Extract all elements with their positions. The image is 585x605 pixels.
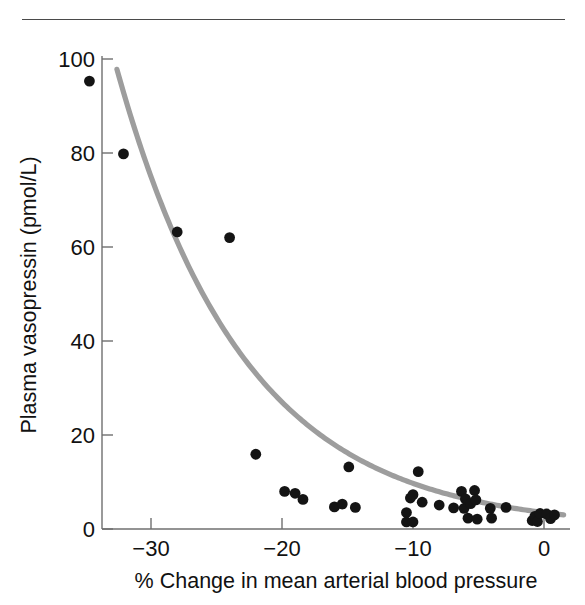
data-point bbox=[448, 502, 459, 513]
data-point bbox=[343, 462, 354, 473]
x-axis-ticks bbox=[151, 518, 544, 529]
data-point bbox=[463, 513, 474, 524]
data-point bbox=[434, 500, 445, 511]
data-point bbox=[84, 76, 95, 87]
data-point bbox=[413, 466, 424, 477]
data-point bbox=[486, 513, 497, 524]
x-tick-label--30: −30 bbox=[132, 536, 169, 561]
y-tick-label-40: 40 bbox=[71, 329, 95, 354]
y-axis-title: Plasma vasopressin (pmol/L) bbox=[17, 156, 41, 433]
y-axis-ticks bbox=[102, 59, 113, 529]
y-tick-label-80: 80 bbox=[71, 141, 95, 166]
data-point bbox=[224, 232, 235, 243]
x-tick-label-0: 0 bbox=[538, 536, 550, 561]
data-point bbox=[337, 499, 348, 510]
data-point bbox=[408, 489, 419, 500]
data-point bbox=[472, 514, 483, 525]
data-point bbox=[279, 486, 290, 497]
data-point bbox=[549, 510, 560, 521]
x-axis-title: % Change in mean arterial blood pressure bbox=[135, 569, 538, 593]
data-point bbox=[250, 449, 261, 460]
data-point bbox=[470, 494, 481, 505]
x-axis-tick-labels: −30−20−100 bbox=[132, 536, 550, 561]
data-point bbox=[417, 497, 428, 508]
data-point bbox=[485, 503, 496, 514]
y-tick-label-20: 20 bbox=[71, 423, 95, 448]
fit-curve bbox=[117, 69, 564, 515]
x-tick-label--10: −10 bbox=[394, 536, 431, 561]
y-axis-tick-labels: 020406080100 bbox=[58, 47, 95, 542]
data-point bbox=[401, 507, 412, 518]
data-point bbox=[408, 517, 419, 528]
data-point bbox=[501, 502, 512, 513]
data-point bbox=[172, 227, 183, 238]
data-points-group bbox=[84, 76, 560, 528]
x-tick-label--20: −20 bbox=[263, 536, 300, 561]
figure-container: 020406080100 −30−20−100 % Change in mean… bbox=[0, 0, 585, 605]
y-tick-label-0: 0 bbox=[83, 517, 95, 542]
data-point bbox=[469, 485, 480, 496]
scatter-plot: 020406080100 −30−20−100 % Change in mean… bbox=[0, 0, 585, 605]
data-point bbox=[350, 502, 361, 513]
y-tick-label-60: 60 bbox=[71, 235, 95, 260]
data-point bbox=[298, 494, 309, 505]
data-point bbox=[118, 149, 129, 160]
y-tick-label-100: 100 bbox=[58, 47, 95, 72]
